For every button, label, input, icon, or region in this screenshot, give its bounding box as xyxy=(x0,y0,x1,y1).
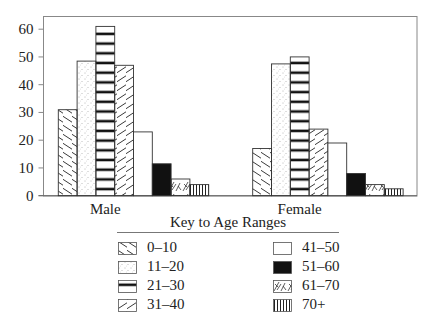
legend-label: 61–70 xyxy=(302,276,340,294)
legend-label: 31–40 xyxy=(147,295,185,313)
legend-label: 21–30 xyxy=(147,276,185,294)
legend-item: 11–20 xyxy=(118,257,184,275)
legend-swatch-blank-icon xyxy=(273,241,292,254)
y-tick-label: 60 xyxy=(19,21,34,37)
bar-female-21-30 xyxy=(290,57,309,196)
bar-male-51-60 xyxy=(152,164,171,196)
legend-swatch-scribble-icon xyxy=(273,279,292,292)
legend-swatch-hlines-icon xyxy=(118,279,137,292)
bar-chart: 0102030405060 MaleFemale xyxy=(0,0,429,322)
legend-divider xyxy=(117,232,339,233)
bar-female-0-10 xyxy=(253,149,272,196)
legend-label: 11–20 xyxy=(147,257,184,275)
bar-female-31-40 xyxy=(309,129,328,196)
legend-swatch-dots-icon xyxy=(118,260,137,273)
legend-item: 61–70 xyxy=(273,276,340,294)
bar-female-11-20 xyxy=(272,64,291,196)
bar-male-11-20 xyxy=(77,61,96,196)
legend-swatch-diag-down-icon xyxy=(118,241,137,254)
bar-male-21-30 xyxy=(96,26,115,195)
bar-male-70+ xyxy=(190,185,209,196)
y-tick-label: 50 xyxy=(19,49,34,65)
legend-item: 31–40 xyxy=(118,295,185,313)
legend-label: 0–10 xyxy=(147,238,177,256)
y-tick-label: 40 xyxy=(19,77,34,93)
y-tick-label: 20 xyxy=(19,132,34,148)
bar-female-51-60 xyxy=(347,174,366,196)
legend-item: 21–30 xyxy=(118,276,185,294)
y-tick-label: 10 xyxy=(19,160,34,176)
legend-label: 70+ xyxy=(302,295,325,313)
bar-male-31-40 xyxy=(115,65,134,195)
legend-swatch-vlines-icon xyxy=(273,298,292,311)
legend-swatch-diag-up-icon xyxy=(118,298,137,311)
bar-male-61-70 xyxy=(171,179,190,196)
y-tick-label: 0 xyxy=(26,188,34,204)
legend-swatch-solid-icon xyxy=(273,260,292,273)
legend-item: 0–10 xyxy=(118,238,177,256)
bar-female-41-50 xyxy=(328,143,347,196)
legend-label: 41–50 xyxy=(302,238,340,256)
bars xyxy=(58,26,403,195)
legend-label: 51–60 xyxy=(302,257,340,275)
bar-female-61-70 xyxy=(366,185,385,196)
legend-item: 70+ xyxy=(273,295,325,313)
bar-female-70+ xyxy=(384,189,403,196)
legend-item: 41–50 xyxy=(273,238,340,256)
legend-title: Key to Age Ranges xyxy=(117,213,339,231)
y-tick-label: 30 xyxy=(19,104,34,120)
bar-male-41-50 xyxy=(134,132,153,196)
bar-male-0-10 xyxy=(58,110,77,196)
legend-item: 51–60 xyxy=(273,257,340,275)
